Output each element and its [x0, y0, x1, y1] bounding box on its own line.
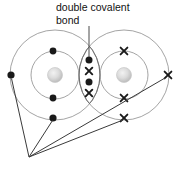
shared-electron-dot	[86, 57, 93, 64]
dot-and-cross-diagram: double covalent bond	[0, 0, 178, 169]
diagram-canvas: double covalent bond	[0, 0, 178, 169]
electron-dot	[50, 95, 57, 102]
shared-electron-dot	[86, 79, 93, 86]
shared-electron-cross	[86, 68, 93, 75]
leader-to-right-bottom-cross	[29, 120, 123, 157]
right-atom-nucleus	[117, 68, 132, 83]
shared-bonding-electrons	[86, 57, 93, 97]
left-atom-nucleus	[48, 68, 63, 83]
leader-to-left-outer-electron	[12, 79, 30, 158]
leader-lines	[12, 78, 166, 157]
electron-dot	[50, 48, 57, 55]
electron-cross	[165, 72, 172, 79]
annotation-label-line2: bond	[56, 14, 80, 26]
left-atom-electrons	[7, 48, 56, 122]
electron-dot	[7, 71, 14, 78]
annotation-label-line1: double covalent	[56, 1, 130, 13]
electron-dot	[49, 114, 56, 121]
shared-electron-cross	[86, 90, 93, 97]
leader-to-left-bottom-electron	[29, 121, 53, 158]
